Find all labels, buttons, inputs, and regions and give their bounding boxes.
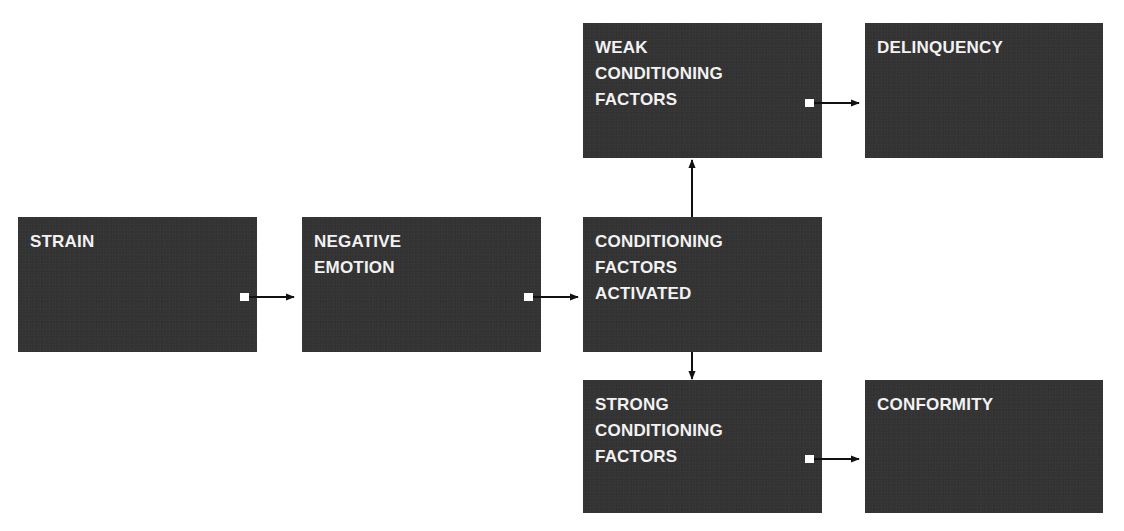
node-conditioning-factors-activated: CONDITIONING FACTORS ACTIVATED — [583, 217, 822, 352]
node-weak-conditioning-factors: WEAK CONDITIONING FACTORS — [583, 23, 822, 158]
node-delinquency: DELINQUENCY — [865, 23, 1103, 158]
node-label-conditioning-factors-activated: CONDITIONING FACTORS ACTIVATED — [595, 229, 810, 307]
connector-tab-strain — [240, 293, 249, 301]
connector-tab-weak-conditioning — [805, 99, 814, 107]
node-label-negative-emotion: NEGATIVE EMOTION — [314, 229, 529, 281]
node-negative-emotion: NEGATIVE EMOTION — [302, 217, 541, 352]
connector-tab-strong-conditioning — [805, 455, 814, 463]
node-label-strong-conditioning-factors: STRONG CONDITIONING FACTORS — [595, 392, 810, 470]
connector-tab-negative-emotion — [524, 293, 533, 301]
node-label-conformity: CONFORMITY — [877, 392, 1091, 418]
node-conformity: CONFORMITY — [865, 380, 1103, 513]
node-label-strain: STRAIN — [30, 229, 245, 255]
node-label-delinquency: DELINQUENCY — [877, 35, 1091, 61]
node-strong-conditioning-factors: STRONG CONDITIONING FACTORS — [583, 380, 822, 513]
node-label-weak-conditioning-factors: WEAK CONDITIONING FACTORS — [595, 35, 810, 113]
node-strain: STRAIN — [18, 217, 257, 352]
